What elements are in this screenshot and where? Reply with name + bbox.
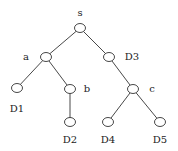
edge-c-D5 [133, 89, 160, 122]
labels-group: saD3D1bcD2D4D5 [10, 7, 167, 145]
node-s [75, 24, 86, 33]
node-D4 [103, 118, 114, 127]
edge-c-D4 [108, 89, 133, 122]
node-c [128, 85, 139, 94]
edge-a-b [46, 57, 70, 89]
edge-s-D3 [80, 28, 109, 57]
node-a [41, 53, 52, 62]
node-D2 [65, 118, 76, 127]
node-label-b: b [84, 83, 90, 94]
node-D3 [104, 53, 115, 62]
node-b [65, 85, 76, 94]
nodes-group [12, 24, 166, 127]
node-label-c: c [149, 83, 155, 94]
node-label-D4: D4 [101, 134, 115, 145]
node-label-D5: D5 [153, 134, 167, 145]
node-label-D1: D1 [10, 103, 24, 114]
node-label-s: s [77, 7, 82, 18]
node-D1 [12, 84, 23, 93]
node-D5 [155, 118, 166, 127]
node-label-a: a [23, 51, 29, 62]
edge-s-a [46, 28, 80, 57]
node-label-D2: D2 [63, 134, 77, 145]
edges-group [17, 28, 160, 122]
tree-diagram: saD3D1bcD2D4D5 [0, 0, 178, 151]
edge-a-D1 [17, 57, 46, 88]
node-label-D3: D3 [125, 51, 139, 62]
